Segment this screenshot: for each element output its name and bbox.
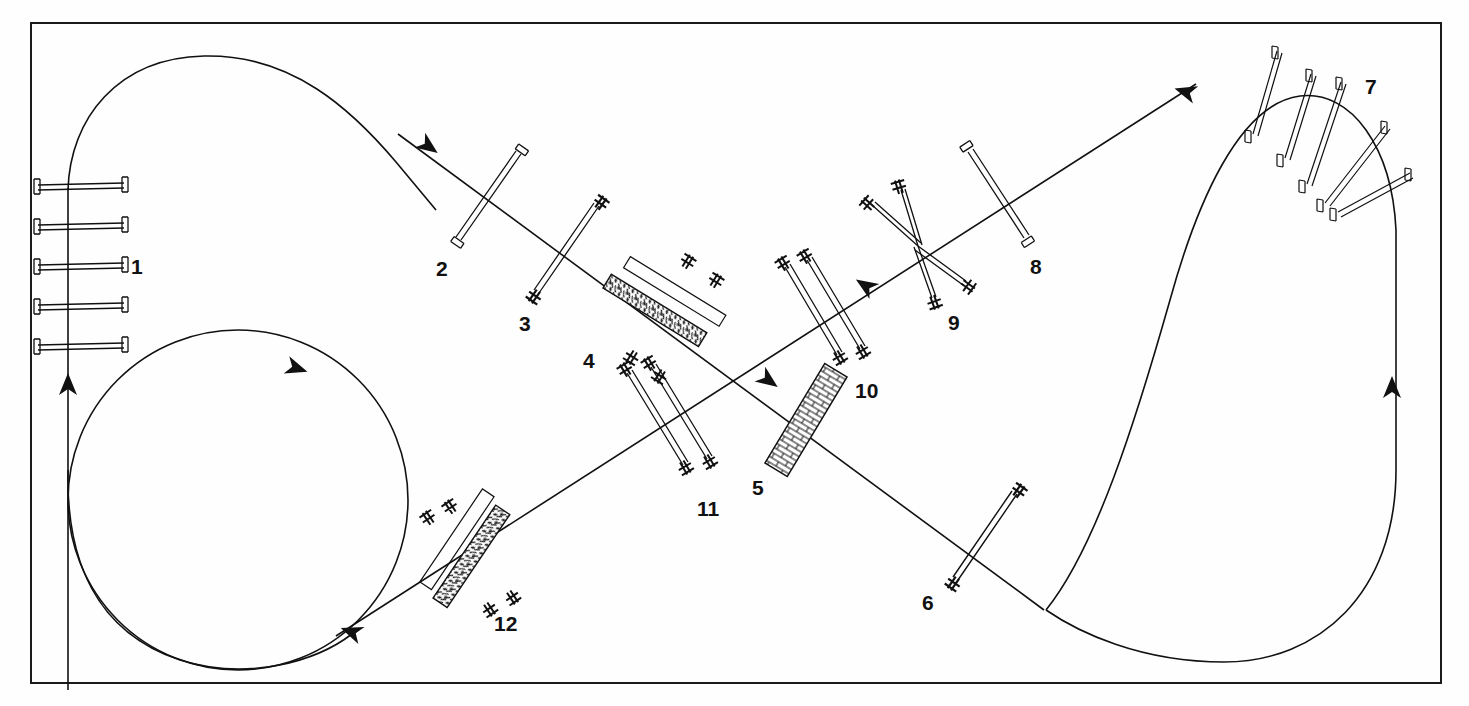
element-label-10: 10 (855, 380, 878, 401)
element-label-7: 7 (1365, 76, 1377, 97)
arrow-top-right-curve (1172, 80, 1198, 104)
element-label-9: 9 (948, 312, 960, 333)
cross-end (890, 178, 907, 195)
element-10-double-barrier (774, 247, 872, 367)
barrier-bar (34, 177, 128, 194)
cross-end (676, 458, 695, 477)
cross-end (774, 254, 793, 273)
element-label-8: 8 (1030, 256, 1042, 277)
element-label-6: 6 (922, 592, 934, 613)
element-label-5: 5 (752, 477, 764, 498)
barrier-bar (34, 297, 128, 314)
hatch-panel (603, 274, 707, 346)
barrier-bar (1299, 77, 1346, 193)
element-9-star-barrier-cluster (858, 178, 978, 311)
element-label-1: 1 (131, 256, 143, 277)
arrow-right-straight-up (1383, 376, 1401, 398)
element-2-single-barrier (451, 144, 529, 248)
barrier-bar (34, 337, 128, 354)
barrier-bar (34, 257, 128, 274)
element-label-11: 11 (697, 498, 719, 519)
element-label-12: 12 (494, 613, 517, 634)
drawing-frame (31, 23, 1441, 683)
direction-arrows (59, 80, 1401, 644)
element-3-single-barrier (525, 193, 611, 306)
cross-end (440, 497, 459, 516)
barrier-bar (1317, 121, 1390, 212)
element-label-2: 2 (436, 258, 448, 279)
cross-end (858, 194, 878, 214)
cross-end (796, 247, 815, 266)
cross-end (700, 452, 719, 471)
path-right-lower-uturn (1046, 400, 1396, 662)
element-label-4: 4 (583, 350, 595, 371)
cross-end (1009, 481, 1028, 500)
cross-end (591, 193, 610, 212)
path-network (68, 56, 1396, 690)
path-main-diagonal-descending (398, 134, 1044, 610)
diagram-canvas: 1 2 3 4 5 6 7 8 9 10 11 12 (0, 0, 1469, 706)
cross-end (830, 348, 849, 367)
element-11-double-barrier (616, 354, 719, 477)
barrier-bar (1245, 46, 1282, 143)
path-circle-tail (68, 470, 352, 669)
cross-end (503, 588, 522, 607)
brick-panel (765, 364, 847, 477)
arrow-mid-right-ascending (851, 272, 879, 299)
barrier-bar (1330, 168, 1413, 221)
element-5-masonry-wall (765, 364, 847, 477)
element-12-double-barrier-hatched (416, 489, 522, 619)
cross-end (926, 293, 944, 311)
element-6-single-barrier (944, 481, 1029, 593)
cross-end (418, 508, 437, 527)
cross-end (640, 354, 659, 373)
path-left-large-circle (68, 330, 408, 670)
cross-end (958, 276, 978, 296)
hatch-panel (433, 505, 510, 607)
cross-end (706, 271, 725, 290)
cross-end (853, 342, 872, 361)
path-left-upper-loop (68, 56, 436, 210)
arrow-mid-diagonal (755, 367, 783, 394)
element-7-radial-barrier-fan (1245, 46, 1413, 221)
barrier-bar (34, 217, 128, 234)
cross-end (678, 252, 697, 271)
arrow-circle-top (284, 356, 310, 380)
path-right-upper-curve (1046, 96, 1396, 610)
element-1-stacked-barriers (34, 177, 128, 354)
track-layout-drawing (0, 0, 1469, 706)
barrier-bar (1277, 69, 1316, 167)
element-label-3: 3 (519, 313, 531, 334)
